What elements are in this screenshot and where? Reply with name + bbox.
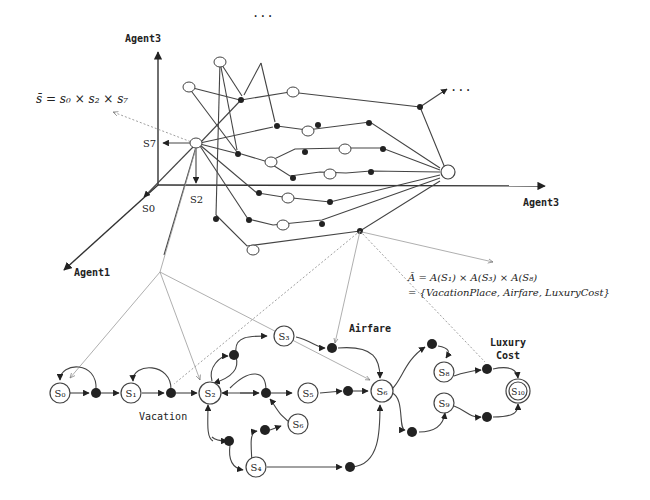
svg-text:S₄: S₄ [251,462,262,473]
mapping-lines [70,148,493,384]
svg-text:S₈: S₈ [439,367,450,378]
place-s2: S₂ [199,382,221,404]
ellipsis-right: ··· [450,83,472,97]
state-nodes [183,57,455,255]
place-s4: S₄ [246,457,266,477]
svg-text:S₅: S₅ [303,388,314,399]
state-product-formula: s̄ = s₀ × s₂ × s₇ [36,92,128,106]
svg-text:S₆: S₆ [377,386,388,397]
place-s5: S₅ [298,383,318,403]
svg-text:S₁₀: S₁₀ [511,387,525,397]
svg-text:S₃: S₃ [279,331,290,342]
svg-text:S₀: S₀ [55,388,66,399]
axis-label-vertical: Agent3 [125,33,161,44]
marker-s2: S2 [190,194,203,205]
marker-s7: S7 [143,138,156,149]
state-space-3d: Agent3 Agent3 Agent1 S7 S2 S0 s̄ = s₀ × … [36,9,559,278]
petri-transitions [91,339,492,472]
svg-text:S₉: S₉ [439,398,450,409]
svg-text:S₁: S₁ [126,388,137,399]
petri-places: S₀ S₁ S₂ S₃ S₄ S₅ S₆ S₆ S₈ S₉ S₁₀ [50,326,530,477]
place-s1: S₁ [121,383,141,403]
action-formula-line1: Ā = A(S₁) × A(S₃) × A(S₈) [407,272,537,283]
label-luxury: Luxury [490,337,526,348]
horizontal-axis [158,185,545,186]
action-formula: Ā = A(S₁) × A(S₃) × A(S₈) = {VacationPla… [407,272,610,298]
place-s9: S₉ [434,393,454,413]
marker-s0: S0 [142,203,155,214]
place-s8: S₈ [434,362,454,382]
place-s10-final: S₁₀ [506,379,530,403]
fanout-edges [164,62,447,255]
diagonal-axis [64,185,158,270]
agent-state-space-diagram: Agent3 Agent3 Agent1 S7 S2 S0 s̄ = s₀ × … [0,0,650,500]
place-s7: S₆ [371,380,393,402]
place-s3: S₃ [274,326,294,346]
action-formula-line2: = {VacationPlace, Airfare, LuxuryCost} [408,287,610,298]
label-vacation: Vacation [139,411,187,422]
axis-label-diagonal: Agent1 [74,267,110,278]
place-s6: S₆ [288,414,308,434]
label-cost: Cost [496,350,520,361]
place-s0: S₀ [50,383,70,403]
svg-text:S₆: S₆ [293,419,304,430]
axis-label-horizontal: Agent3 [523,197,559,208]
label-airfare: Airfare [349,323,391,334]
svg-text:S₂: S₂ [205,388,216,399]
petri-net: S₀ S₁ S₂ S₃ S₄ S₅ S₆ S₆ S₈ S₉ S₁₀ [50,323,530,477]
ellipsis-top: ··· [252,9,274,23]
